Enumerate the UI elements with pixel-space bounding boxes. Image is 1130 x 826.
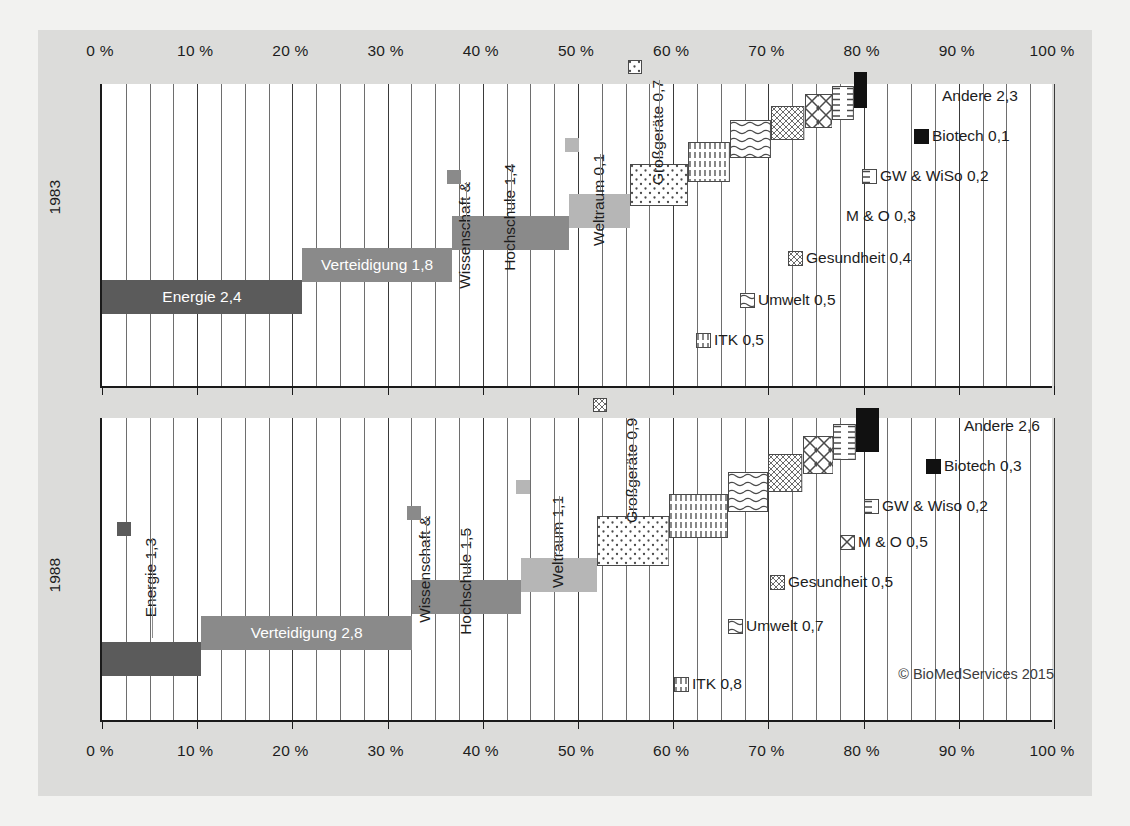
bar-segment bbox=[669, 494, 728, 538]
bar-segment bbox=[803, 436, 833, 474]
x-axis-bottom-tick-100: 100 % bbox=[1030, 742, 1075, 760]
label-leader-line bbox=[426, 516, 427, 564]
gridline-major bbox=[1054, 418, 1055, 720]
label-leader-line bbox=[466, 182, 467, 230]
legend-swatch bbox=[770, 575, 785, 590]
axis-tick bbox=[959, 720, 960, 729]
legend-label: Andere 2,3 bbox=[942, 88, 1018, 104]
bar-segment bbox=[856, 408, 879, 452]
legend-swatch bbox=[674, 677, 689, 692]
axis-tick bbox=[959, 386, 960, 395]
gridline-major bbox=[864, 418, 865, 720]
gridline-minor bbox=[649, 418, 650, 720]
legend-swatch bbox=[840, 535, 855, 550]
bar-segment bbox=[688, 142, 730, 182]
legend-swatch-small bbox=[447, 170, 461, 184]
gridline-minor bbox=[507, 418, 508, 720]
legend-label: Umwelt 0,5 bbox=[758, 292, 836, 308]
x-axis-bottom-tick-80: 80 % bbox=[844, 742, 880, 760]
legend-swatch-small bbox=[117, 522, 131, 536]
axis-tick bbox=[388, 720, 389, 729]
bar-vertical-label: Weltraum 1,1 bbox=[550, 496, 566, 588]
legend-swatch bbox=[788, 251, 803, 266]
axis-tick bbox=[864, 720, 865, 729]
gridline-minor bbox=[316, 418, 317, 720]
gridline-minor bbox=[840, 84, 841, 386]
legend-label: Umwelt 0,7 bbox=[746, 618, 824, 634]
gridline-minor bbox=[411, 418, 412, 720]
gridline-minor bbox=[173, 84, 174, 386]
gridline-minor bbox=[364, 84, 365, 386]
axis-tick bbox=[292, 386, 293, 395]
bottom-axis-tick-labels: 0 %10 %20 %30 %40 %50 %60 %70 %80 %90 %1… bbox=[38, 742, 1092, 764]
x-axis-bottom-tick-20: 20 % bbox=[272, 742, 308, 760]
legend-swatch-small bbox=[593, 398, 607, 412]
gridline-minor bbox=[126, 84, 127, 386]
bar-segment bbox=[805, 94, 833, 128]
label-leader-line bbox=[559, 496, 560, 554]
axis-tick bbox=[1054, 386, 1055, 395]
bar-vertical-label: Hochschule 1,5 bbox=[458, 528, 474, 635]
axis-tick bbox=[578, 386, 579, 395]
bar-value-label: Energie 2,4 bbox=[162, 289, 241, 305]
axis-tick bbox=[197, 720, 198, 729]
bar-segment bbox=[728, 472, 768, 512]
chart-card: 0 %10 %20 %30 %40 %50 %60 %70 %80 %90 %1… bbox=[38, 30, 1092, 796]
label-leader-line bbox=[511, 164, 512, 212]
year-label-1983: 1983 bbox=[46, 180, 64, 214]
axis-tick bbox=[673, 386, 674, 395]
gridline-major bbox=[292, 84, 293, 386]
bar-value-label: Verteidigung 1,8 bbox=[321, 257, 433, 273]
legend-label: Biotech 0,1 bbox=[932, 128, 1010, 144]
legend-swatch bbox=[740, 293, 755, 308]
legend-swatch bbox=[864, 499, 879, 514]
axis-tick bbox=[768, 386, 769, 395]
x-axis-bottom-tick-50: 50 % bbox=[558, 742, 594, 760]
axis-tick bbox=[483, 386, 484, 395]
gridline-minor bbox=[1030, 84, 1031, 386]
gridline-major bbox=[388, 84, 389, 386]
axis-tick bbox=[388, 386, 389, 395]
gridline-minor bbox=[887, 418, 888, 720]
gridline-major bbox=[197, 84, 198, 386]
legend-label: M & O 0,3 bbox=[846, 208, 916, 224]
gridline-minor bbox=[340, 84, 341, 386]
axis-tick bbox=[197, 386, 198, 395]
legend-label: Andere 2,6 bbox=[964, 418, 1040, 434]
x-axis-bottom-tick-40: 40 % bbox=[463, 742, 499, 760]
legend-swatch bbox=[696, 333, 711, 348]
label-leader-line bbox=[600, 154, 601, 190]
legend-label: ITK 0,5 bbox=[714, 332, 764, 348]
legend-label: Gesundheit 0,4 bbox=[806, 250, 911, 266]
bar-vertical-label: Weltraum 0,1 bbox=[591, 154, 607, 246]
axis-tick bbox=[483, 720, 484, 729]
axis-tick bbox=[1054, 720, 1055, 729]
year-label-1988: 1988 bbox=[46, 558, 64, 592]
x-axis-bottom-tick-90: 90 % bbox=[939, 742, 975, 760]
legend-label: M & O 0,5 bbox=[858, 534, 928, 550]
bar-vertical-label: Wissenschaft & bbox=[457, 182, 473, 289]
gridline-minor bbox=[269, 84, 270, 386]
gridline-minor bbox=[435, 418, 436, 720]
gridline-major bbox=[483, 418, 484, 720]
legend-swatch bbox=[728, 619, 743, 634]
axis-tick bbox=[292, 720, 293, 729]
bar-segment bbox=[102, 642, 201, 676]
legend-swatch-small bbox=[628, 60, 642, 74]
gridline-minor bbox=[840, 418, 841, 720]
bar-vertical-label: Hochschule 1,4 bbox=[502, 164, 518, 271]
bar-segment bbox=[771, 106, 804, 140]
bar-segment bbox=[768, 454, 802, 492]
gridline-minor bbox=[221, 418, 222, 720]
gridline-minor bbox=[816, 84, 817, 386]
legend-swatch-small bbox=[516, 480, 530, 494]
legend-label: ITK 0,8 bbox=[692, 676, 742, 692]
axis-tick bbox=[864, 386, 865, 395]
legend-label: Gesundheit 0,5 bbox=[788, 574, 893, 590]
bar-segment bbox=[730, 120, 771, 158]
gridline-major bbox=[388, 418, 389, 720]
gridline-minor bbox=[364, 418, 365, 720]
gridline-minor bbox=[887, 84, 888, 386]
gridline-minor bbox=[435, 84, 436, 386]
gridline-minor bbox=[411, 84, 412, 386]
